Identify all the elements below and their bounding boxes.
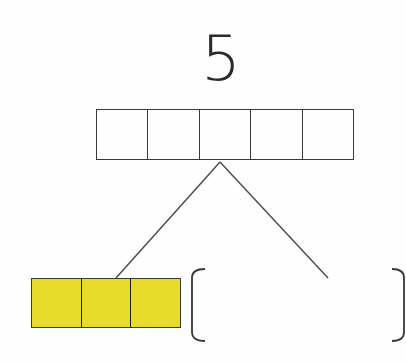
- part-box-cell-filled: [32, 279, 82, 327]
- right-branch-line: [220, 162, 328, 278]
- left-bracket-icon: [192, 269, 205, 341]
- part-box-row: [31, 278, 181, 328]
- part-box-cell-filled: [82, 279, 132, 327]
- part-box-cell-filled: [131, 279, 180, 327]
- number-bond-diagram: 5: [0, 0, 406, 363]
- left-branch-line: [116, 162, 220, 278]
- blank-answer-area[interactable]: [206, 272, 390, 338]
- right-bracket-icon: [392, 269, 404, 341]
